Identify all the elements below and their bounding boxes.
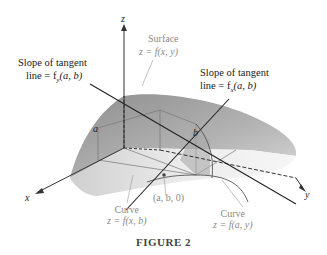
z-axis-label: z	[121, 14, 125, 24]
surface-equation: z = f(x, y)	[139, 47, 178, 57]
slope-y-label: Slope of tangent line = fy(a, b)	[18, 58, 87, 84]
z-axis-arrow	[121, 24, 127, 31]
curve-xb-line2: z = f(x, b)	[107, 216, 147, 226]
slope-y-args: (a, b)	[60, 70, 83, 81]
curve-ay-label: Curve z = f(a, y)	[213, 209, 253, 230]
slope-y-prefix: line = f	[26, 70, 56, 81]
point-b-label: b	[193, 128, 198, 138]
curve-xb-line1: Curve	[107, 205, 147, 215]
slope-x-prefix: line = f	[200, 80, 230, 91]
x-axis-arrow	[35, 188, 44, 194]
curve-xb-label: Curve z = f(x, b)	[107, 205, 147, 226]
slope-y-line2: line = fy(a, b)	[18, 71, 87, 84]
curve-ay-line1: Curve	[213, 209, 253, 219]
base-point-label: (a, b, 0)	[153, 193, 184, 203]
slope-x-line1: Slope of tangent	[200, 68, 269, 79]
curve-ay-line2: z = f(a, y)	[213, 220, 253, 230]
x-axis-label: x	[25, 193, 29, 203]
point-a-label: a	[93, 124, 98, 134]
slope-x-args: (a, b)	[234, 80, 257, 91]
figure-caption: FIGURE 2	[0, 236, 327, 248]
slope-y-line1: Slope of tangent	[18, 58, 87, 69]
slope-x-label: Slope of tangent line = fx(a, b)	[200, 68, 269, 94]
base-point	[162, 173, 166, 177]
slope-x-line2: line = fx(a, b)	[200, 81, 269, 94]
y-axis-label: y	[305, 190, 309, 200]
surface-label: Surface	[148, 34, 179, 44]
